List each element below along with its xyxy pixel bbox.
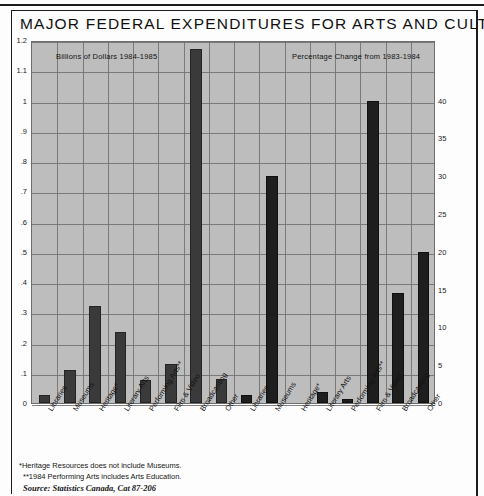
y-tick-left: .7 (5, 187, 27, 196)
gridline-vertical (310, 42, 311, 403)
source-line: Source: Statistics Canada, Cat 87-206 (23, 483, 156, 493)
gridline-horizontal (32, 72, 434, 73)
y-tick-right: 35 (438, 134, 462, 143)
x-axis-category-labels: LibrariesMuseumsHeritage*Literary ArtsPe… (0, 0, 484, 60)
bar (367, 101, 379, 404)
y-tick-left: .1 (5, 369, 27, 378)
gridline-vertical (234, 42, 235, 403)
bar (266, 176, 278, 403)
y-tick-right: 5 (438, 361, 462, 370)
gridline-vertical (209, 42, 210, 403)
y-tick-right: 10 (438, 323, 462, 332)
y-tick-left: .2 (5, 339, 27, 348)
gridline-vertical (108, 42, 109, 403)
footnote-heritage: *Heritage Resources does not include Mus… (19, 461, 182, 470)
gridline-vertical (83, 42, 84, 403)
y-tick-right: 20 (438, 248, 462, 257)
y-tick-left: .6 (5, 218, 27, 227)
chart-page: MAJOR FEDERAL EXPENDITURES FOR ARTS AND … (0, 0, 484, 496)
gridline-vertical (158, 42, 159, 403)
y-tick-left: 1.1 (5, 66, 27, 75)
y-tick-left: .4 (5, 278, 27, 287)
y-tick-left: 0 (5, 399, 27, 408)
y-tick-right: 30 (438, 172, 462, 181)
gridline-vertical (57, 42, 58, 403)
gridline-vertical (360, 42, 361, 403)
y-tick-left: .5 (5, 248, 27, 257)
y-tick-right: 25 (438, 210, 462, 219)
bar (190, 49, 202, 403)
y-tick-right: 40 (438, 97, 462, 106)
y-tick-left: .3 (5, 308, 27, 317)
y-tick-left: 1 (5, 97, 27, 106)
plot-area (31, 41, 435, 404)
gridline-vertical (133, 42, 134, 403)
gridline-vertical (285, 42, 286, 403)
gridline-vertical (259, 42, 260, 403)
y-tick-left: .8 (5, 157, 27, 166)
y-tick-right: 0 (438, 399, 462, 408)
gridline-vertical (411, 42, 412, 403)
y-tick-right: 15 (438, 286, 462, 295)
gridline-vertical (386, 42, 387, 403)
footnote-performing-arts: **1984 Performing Arts includes Arts Edu… (23, 472, 181, 481)
gridline-vertical (335, 42, 336, 403)
outer-frame-right-edge (476, 10, 478, 496)
y-tick-left: .9 (5, 127, 27, 136)
gridline-vertical (184, 42, 185, 403)
